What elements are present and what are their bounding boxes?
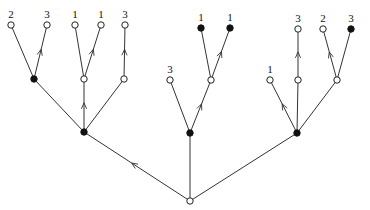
tree-edge — [34, 25, 47, 79]
leaf-labels: 231133111323 — [8, 8, 354, 75]
tree-edges — [11, 25, 351, 201]
node-label: 1 — [267, 63, 273, 75]
open-node-icon — [122, 22, 128, 28]
node-label: 2 — [320, 12, 326, 24]
node-label: 2 — [8, 8, 14, 20]
node-label: 1 — [72, 8, 78, 20]
tree-edge — [323, 29, 337, 80]
filled-node-icon — [227, 25, 233, 31]
node-label: 1 — [227, 11, 233, 23]
filled-node-icon — [198, 25, 204, 31]
tree-nodes — [8, 22, 354, 204]
filled-node-icon — [187, 130, 193, 136]
open-node-icon — [187, 198, 193, 204]
rooted-tree-diagram: 231133111323 — [0, 0, 370, 210]
open-node-icon — [44, 22, 50, 28]
tree-edge — [297, 80, 337, 133]
tree-edge — [211, 28, 230, 80]
open-node-icon — [167, 77, 173, 83]
open-node-icon — [8, 22, 14, 28]
tree-edge — [201, 28, 211, 80]
open-node-icon — [334, 77, 340, 83]
open-node-icon — [72, 22, 78, 28]
tree-edge — [190, 133, 297, 201]
node-label: 3 — [167, 63, 173, 75]
filled-node-icon — [348, 26, 354, 32]
node-label: 1 — [198, 11, 204, 23]
tree-edge — [84, 25, 101, 79]
tree-edge — [84, 79, 124, 132]
filled-node-icon — [81, 129, 87, 135]
open-node-icon — [267, 77, 273, 83]
filled-node-icon — [294, 130, 300, 136]
tree-edge — [337, 29, 351, 80]
tree-edge — [84, 132, 190, 201]
open-node-icon — [81, 76, 87, 82]
tree-edge — [75, 25, 84, 79]
open-node-icon — [208, 77, 214, 83]
node-label: 3 — [348, 12, 354, 24]
tree-edge — [190, 80, 211, 133]
open-node-icon — [98, 22, 104, 28]
tree-edge — [170, 80, 190, 133]
open-node-icon — [121, 76, 127, 82]
node-label: 3 — [295, 12, 301, 24]
arrow-icon — [132, 163, 138, 168]
node-label: 3 — [44, 8, 50, 20]
open-node-icon — [295, 26, 301, 32]
tree-edge — [11, 25, 34, 79]
tree-edge — [270, 80, 297, 133]
open-node-icon — [320, 26, 326, 32]
tree-edge — [297, 80, 298, 133]
tree-edge — [124, 25, 125, 79]
node-label: 1 — [98, 8, 104, 20]
open-node-icon — [295, 77, 301, 83]
filled-node-icon — [31, 76, 37, 82]
tree-edge — [34, 79, 84, 132]
node-label: 3 — [122, 8, 128, 20]
